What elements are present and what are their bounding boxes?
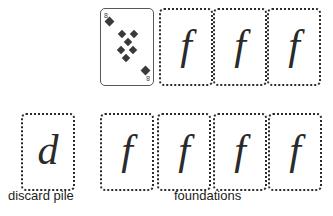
foundation-slot-4[interactable]: f: [100, 113, 154, 191]
diamond-pip: [117, 46, 125, 54]
solitaire-board: 8 8 f f f d f f f f discard pile foundat…: [0, 0, 333, 216]
foundation-letter: f: [234, 129, 246, 171]
diamond-pip: [130, 30, 138, 38]
diamond-pip: [122, 54, 130, 62]
foundation-letter: f: [180, 24, 192, 66]
foundation-slot-1[interactable]: f: [159, 8, 213, 86]
card-8-of-diamonds[interactable]: 8 8: [100, 8, 154, 86]
foundation-slot-2[interactable]: f: [213, 8, 267, 86]
discard-pile-label: discard pile: [8, 188, 74, 203]
foundation-slot-7[interactable]: f: [268, 113, 322, 191]
discard-pile-slot[interactable]: d: [21, 113, 75, 191]
diamond-pip: [105, 17, 115, 27]
foundation-letter: f: [178, 129, 190, 171]
foundation-slot-3[interactable]: f: [267, 8, 321, 86]
foundation-letter: f: [234, 24, 246, 66]
foundations-label: foundations: [174, 188, 241, 203]
discard-letter: d: [38, 129, 59, 171]
diamond-pip: [129, 46, 137, 54]
diamond-pip: [118, 30, 126, 38]
foundation-letter: f: [121, 129, 133, 171]
foundation-slot-5[interactable]: f: [157, 113, 211, 191]
diamond-pip: [141, 66, 151, 76]
foundation-letter: f: [288, 24, 300, 66]
diamond-pip: [124, 38, 132, 46]
foundation-slot-6[interactable]: f: [213, 113, 267, 191]
card-index-bottom-right: 8: [146, 75, 150, 82]
foundation-letter: f: [289, 129, 301, 171]
